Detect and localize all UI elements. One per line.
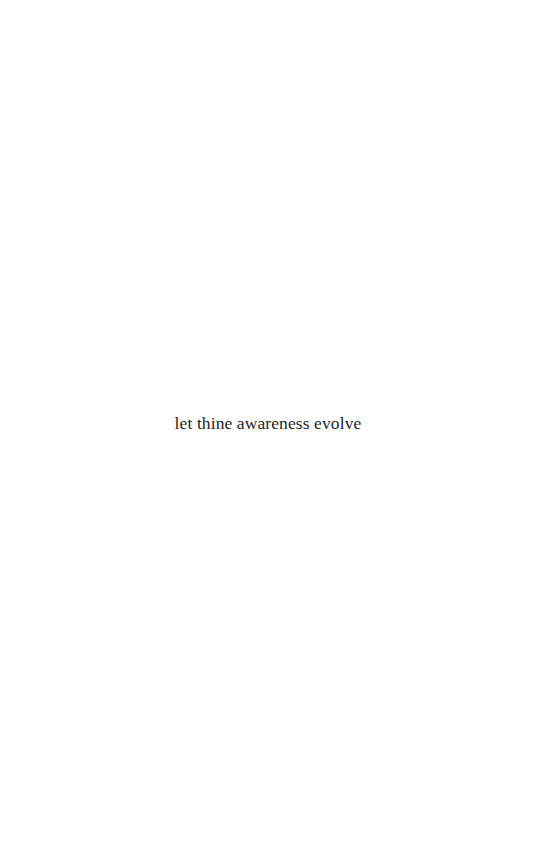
centered-text-line: let thine awareness evolve (0, 413, 536, 434)
document-page: let thine awareness evolve (0, 0, 536, 863)
